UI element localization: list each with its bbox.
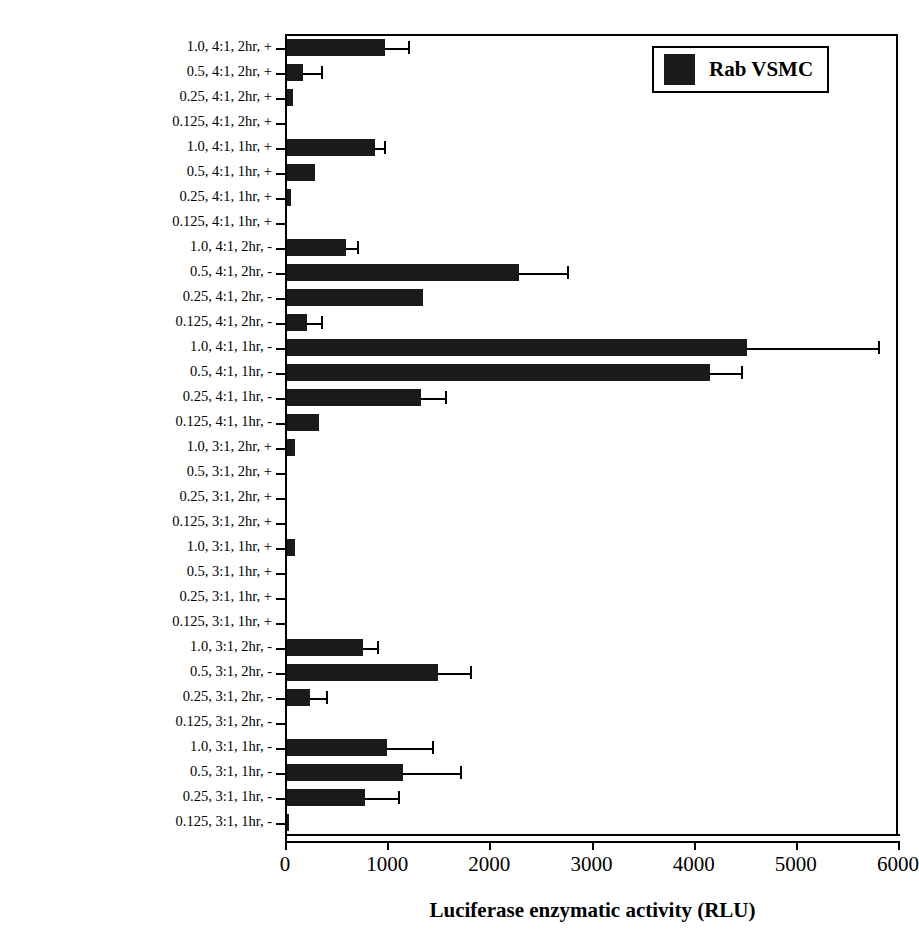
y-axis-tick-label: 1.0, 3:1, 2hr, + xyxy=(82,439,272,454)
y-axis-tick-label: 0.5, 4:1, 2hr, + xyxy=(82,64,272,79)
error-bar-cap xyxy=(470,666,472,679)
y-axis-tick-label: 0.5, 4:1, 2hr, - xyxy=(82,264,272,279)
error-bar-line xyxy=(385,48,407,50)
error-bar-cap xyxy=(321,316,323,329)
error-bar-cap xyxy=(326,691,328,704)
error-bar-line xyxy=(710,373,741,375)
y-axis-tick-label: 0.25, 4:1, 1hr, + xyxy=(82,189,272,204)
x-axis-tick xyxy=(592,841,594,850)
bar xyxy=(287,664,438,681)
y-axis-tick-label: 0.5, 4:1, 1hr, - xyxy=(82,364,272,379)
error-bar-line xyxy=(307,323,320,325)
y-axis-tick-label: 1.0, 3:1, 1hr, - xyxy=(82,739,272,754)
bar xyxy=(287,89,293,106)
y-axis-tick-label: 0.25, 3:1, 1hr, - xyxy=(82,789,272,804)
bar xyxy=(287,339,747,356)
bar xyxy=(287,64,303,81)
y-axis-tick-label: 1.0, 4:1, 2hr, - xyxy=(82,239,272,254)
x-axis-tick-label: 6000 xyxy=(877,852,919,877)
x-axis-tick xyxy=(489,841,491,850)
error-bar-line xyxy=(375,148,384,150)
y-axis-tick-labels: 1.0, 4:1, 2hr, +0.5, 4:1, 2hr, +0.25, 4:… xyxy=(88,34,278,834)
error-bar-line xyxy=(365,798,399,800)
bar xyxy=(287,814,289,831)
y-axis-tick-label: 0.5, 4:1, 1hr, + xyxy=(82,164,272,179)
bar xyxy=(287,39,385,56)
bar xyxy=(287,539,295,556)
y-axis-tick-label: 1.0, 3:1, 2hr, - xyxy=(82,639,272,654)
bar xyxy=(287,364,710,381)
error-bar-cap xyxy=(321,66,323,79)
error-bar-line xyxy=(310,698,325,700)
bar xyxy=(287,239,346,256)
y-axis-tick-label: 0.125, 4:1, 1hr, - xyxy=(82,414,272,429)
y-axis-tick-label: 0.125, 4:1, 2hr, - xyxy=(82,314,272,329)
y-axis-tick-label: 0.125, 4:1, 1hr, + xyxy=(82,214,272,229)
y-axis-tick-label: 1.0, 4:1, 1hr, - xyxy=(82,339,272,354)
bar xyxy=(287,164,315,181)
error-bar-cap xyxy=(357,241,359,254)
error-bar-line xyxy=(747,348,878,350)
x-axis-tick xyxy=(796,841,798,850)
bar xyxy=(287,414,319,431)
error-bar-cap xyxy=(432,741,434,754)
bar xyxy=(287,789,365,806)
error-bar-line xyxy=(346,248,357,250)
y-axis-tick-label: 0.25, 4:1, 2hr, + xyxy=(82,89,272,104)
bar xyxy=(287,289,423,306)
y-axis-tick-label: 0.25, 3:1, 1hr, + xyxy=(82,589,272,604)
y-axis-tick-label: 1.0, 4:1, 2hr, + xyxy=(82,39,272,54)
x-axis-tick-label: 1000 xyxy=(366,852,408,877)
x-axis-line-upper xyxy=(285,834,900,836)
x-axis-tick xyxy=(694,841,696,850)
y-axis-tick-label: 0.125, 4:1, 2hr, + xyxy=(82,114,272,129)
bar xyxy=(287,139,375,156)
y-axis-tick-label: 0.25, 3:1, 2hr, + xyxy=(82,489,272,504)
x-axis-title: Luciferase enzymatic activity (RLU) xyxy=(285,898,900,923)
bar xyxy=(287,764,403,781)
bar xyxy=(287,264,519,281)
y-axis-line xyxy=(285,34,287,842)
error-bar-line xyxy=(403,773,459,775)
error-bar-cap xyxy=(445,391,447,404)
error-bar-line xyxy=(438,673,470,675)
error-bar-cap xyxy=(398,791,400,804)
x-axis-tick xyxy=(898,841,900,850)
y-axis-title: Transfection conditions: (μg DNA, Ratio,… xyxy=(0,0,86,880)
error-bar-cap xyxy=(460,766,462,779)
error-bar-line xyxy=(421,398,446,400)
x-axis-tick-label: 2000 xyxy=(468,852,510,877)
bar xyxy=(287,639,363,656)
bar xyxy=(287,389,421,406)
error-bar-cap xyxy=(567,266,569,279)
y-axis-tick-label: 0.5, 3:1, 1hr, + xyxy=(82,564,272,579)
y-axis-tick-label: 0.125, 3:1, 2hr, - xyxy=(82,714,272,729)
x-axis-tick-label: 0 xyxy=(280,852,291,877)
plot-area xyxy=(285,34,898,834)
error-bar-line xyxy=(303,73,320,75)
bar xyxy=(287,439,295,456)
x-axis-tick xyxy=(387,841,389,850)
y-axis-tick-label: 0.125, 3:1, 1hr, + xyxy=(82,614,272,629)
error-bar-line xyxy=(519,273,567,275)
error-bar-cap xyxy=(384,141,386,154)
legend-swatch-rab-vsmc xyxy=(664,54,695,85)
y-axis-tick-label: 1.0, 3:1, 1hr, + xyxy=(82,539,272,554)
bar xyxy=(287,189,291,206)
x-axis-tick-label: 4000 xyxy=(673,852,715,877)
x-axis-tick-label: 5000 xyxy=(775,852,817,877)
error-bar-cap xyxy=(741,366,743,379)
y-axis-tick-label: 0.25, 4:1, 1hr, - xyxy=(82,389,272,404)
y-axis-tick-label: 0.125, 3:1, 2hr, + xyxy=(82,514,272,529)
error-bar-line xyxy=(363,648,377,650)
legend-label-rab-vsmc: Rab VSMC xyxy=(709,57,813,82)
x-axis-tick xyxy=(285,841,287,850)
y-axis-tick-label: 0.25, 4:1, 2hr, - xyxy=(82,289,272,304)
error-bar-cap xyxy=(377,641,379,654)
y-axis-tick-label: 1.0, 4:1, 1hr, + xyxy=(82,139,272,154)
y-axis-tick-label: 0.5, 3:1, 1hr, - xyxy=(82,764,272,779)
error-bar-cap xyxy=(408,41,410,54)
y-axis-tick-label: 0.25, 3:1, 2hr, - xyxy=(82,689,272,704)
error-bar-cap xyxy=(878,341,880,354)
